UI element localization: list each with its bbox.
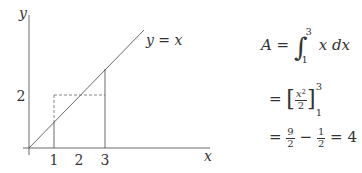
eval-upper: 3 (316, 82, 322, 92)
frac-den: 2 (297, 101, 305, 112)
minus-sign: − (300, 128, 313, 146)
curve-label: y = x (145, 32, 183, 48)
x-tick-1: 1 (50, 152, 59, 168)
eq1-lhs: A = (261, 36, 289, 54)
x-tick-2: 2 (75, 152, 84, 168)
frac-num: x (296, 88, 302, 99)
eq3-equals-2: = (330, 128, 343, 146)
fraction-9-over-2: 92 (286, 127, 294, 149)
result-value: 4 (347, 128, 357, 146)
x-axis-label: x (204, 148, 212, 164)
equation-antiderivative: = [x22]31 (269, 84, 322, 111)
eq2-equals: = (269, 90, 282, 108)
integral-upper-limit: 3 (306, 27, 312, 37)
integrand: x dx (319, 36, 350, 54)
fraction-x2-over-2: x22 (295, 89, 307, 111)
eval-lower: 1 (316, 108, 322, 118)
bracket-right: ] (307, 86, 316, 111)
y-axis-label: y (18, 5, 28, 21)
equation-result: = 92 − 12 = 4 (269, 127, 357, 149)
equation-integral: A = ∫31 x dx (261, 26, 350, 56)
frac-num-sup: 2 (302, 88, 306, 96)
x-tick-3: 3 (101, 152, 110, 168)
integral-lower-limit: 1 (302, 55, 312, 65)
line-y-equals-x (29, 30, 144, 148)
eq3-equals-1: = (269, 128, 282, 146)
fraction-1-over-2: 12 (317, 127, 325, 149)
y-tick-2: 2 (17, 88, 26, 104)
bracket-left: [ (286, 86, 295, 111)
